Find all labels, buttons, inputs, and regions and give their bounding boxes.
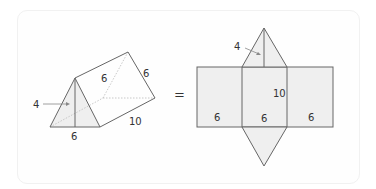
prism-length-label: 10	[129, 116, 142, 127]
triangular-prism: 4 6 6 6 10	[33, 52, 155, 142]
net-length-label: 10	[273, 88, 286, 99]
prism-base-label: 6	[71, 131, 77, 142]
net-left-face-label: 6	[214, 112, 220, 123]
prism-net-diagram: 4 6 6 6 10 = 4 10 6 6 6	[0, 0, 376, 189]
net-triangle-height-label: 4	[234, 41, 240, 52]
equals-sign: =	[174, 87, 185, 102]
prism-side-top-label: 6	[101, 73, 107, 84]
prism-side-back-label: 6	[143, 68, 149, 79]
prism-height-label: 4	[33, 99, 39, 110]
prism-net: 4 10 6 6 6	[197, 28, 333, 166]
net-middle-face-label: 6	[261, 113, 267, 124]
net-right-face-label: 6	[308, 112, 314, 123]
